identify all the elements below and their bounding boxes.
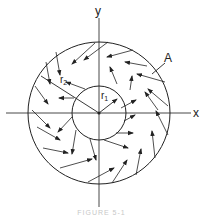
vortex-flow-diagram: y x A r1 r2 FIGURE 5-1 [0, 0, 203, 217]
velocity-arrow [130, 76, 132, 90]
r1-subscript: 1 [104, 95, 108, 102]
point-a-label: A [164, 51, 172, 65]
velocity-arrow [88, 168, 114, 182]
velocity-arrow [110, 67, 117, 84]
velocity-arrow [90, 139, 96, 160]
velocity-arrow [66, 82, 85, 89]
x-axis-label: x [193, 106, 199, 120]
r2-label: r2 [60, 74, 67, 86]
figure-caption: FIGURE 5-1 [0, 209, 203, 216]
velocity-arrow [125, 62, 147, 66]
velocity-arrow [72, 130, 76, 154]
origin-dot [97, 111, 100, 114]
velocity-arrow [156, 111, 168, 135]
velocity-arrow [145, 92, 158, 110]
velocity-arrow [104, 140, 128, 148]
velocity-arrow [107, 50, 133, 57]
velocity-arrow [152, 131, 155, 158]
velocity-arrow [58, 117, 72, 132]
velocity-arrow [43, 148, 68, 153]
velocity-arrow [84, 42, 108, 60]
velocity-arrow [35, 86, 48, 104]
y-axis-label: y [95, 4, 101, 18]
diagram-canvas: y x A r1 r2 [0, 0, 203, 217]
velocity-arrow [60, 159, 92, 168]
velocity-arrow [37, 127, 60, 140]
velocity-arrow [148, 89, 168, 106]
r2-subscript: 2 [63, 79, 67, 86]
r1-label: r1 [101, 90, 108, 102]
